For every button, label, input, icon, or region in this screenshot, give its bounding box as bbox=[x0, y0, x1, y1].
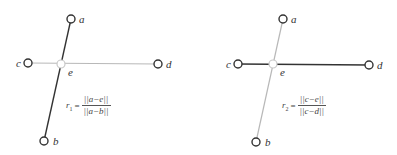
segment-a-b bbox=[44, 19, 71, 141]
fraction: ||c−e|| ||c−d|| bbox=[298, 94, 326, 117]
label-b: b bbox=[265, 136, 271, 148]
node-d bbox=[365, 61, 373, 69]
fraction: ||a−e|| ||a−b|| bbox=[82, 94, 111, 117]
label-d: d bbox=[377, 59, 383, 71]
formula-r1: r1 = ||a−e|| ||a−b|| bbox=[66, 94, 111, 117]
denominator: ||a−b|| bbox=[82, 106, 111, 117]
denominator: ||c−d|| bbox=[298, 106, 326, 117]
segment-a-b bbox=[256, 19, 283, 142]
equals-sign: = bbox=[291, 101, 296, 111]
left-panel: a b c d e bbox=[16, 13, 172, 147]
label-b: b bbox=[53, 135, 59, 147]
formula-lhs: r1 bbox=[66, 100, 73, 112]
node-c bbox=[234, 60, 242, 68]
label-e: e bbox=[68, 66, 73, 78]
node-e bbox=[269, 60, 277, 68]
label-a: a bbox=[291, 13, 297, 25]
node-a bbox=[67, 15, 75, 23]
numerator: ||c−e|| bbox=[298, 94, 326, 105]
segment-c-d bbox=[28, 63, 158, 64]
label-e: e bbox=[280, 66, 285, 78]
diagram-canvas: a b c d e a b c d e bbox=[0, 0, 397, 155]
label-c: c bbox=[226, 58, 231, 70]
formula-r2: r2 = ||c−e|| ||c−d|| bbox=[282, 94, 326, 117]
right-panel: a b c d e bbox=[226, 13, 383, 148]
node-e bbox=[57, 60, 65, 68]
node-c bbox=[24, 59, 32, 67]
segment-c-d bbox=[238, 64, 369, 65]
node-a bbox=[279, 15, 287, 23]
equals-sign: = bbox=[75, 101, 80, 111]
node-d bbox=[154, 60, 162, 68]
formula-lhs: r2 bbox=[282, 100, 289, 112]
node-b bbox=[40, 137, 48, 145]
node-b bbox=[252, 138, 260, 146]
numerator: ||a−e|| bbox=[82, 94, 110, 105]
label-a: a bbox=[79, 13, 85, 25]
label-c: c bbox=[16, 57, 21, 69]
label-d: d bbox=[166, 58, 172, 70]
